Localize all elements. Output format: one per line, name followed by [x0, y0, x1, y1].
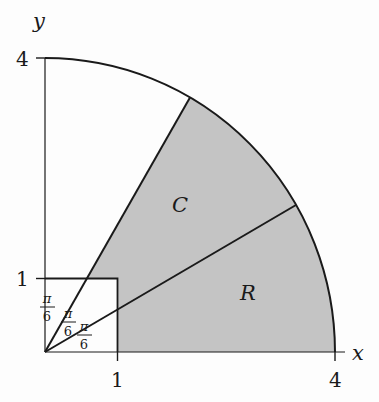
angle-label-3-numerator: π — [79, 319, 89, 334]
shaded-sector-fill — [45, 97, 335, 352]
shaded-region — [45, 97, 335, 352]
region-label-R: R — [239, 281, 256, 305]
angle-label-2-denominator: 6 — [64, 324, 72, 339]
region-label-C: C — [172, 193, 188, 217]
y-tick-label-4: 4 — [16, 47, 29, 71]
angle-label-2-numerator: π — [63, 306, 73, 321]
y-axis-label: y — [32, 9, 46, 33]
figure-container: y x 4 1 1 4 C R π 6 π 6 π 6 — [0, 0, 379, 402]
quarter-disk-diagram: y x 4 1 1 4 C R π 6 π 6 π 6 — [0, 0, 379, 402]
x-tick-label-4: 4 — [329, 368, 342, 392]
angle-label-1: π 6 — [40, 291, 55, 324]
x-tick-label-1: 1 — [111, 368, 124, 392]
y-tick-label-1: 1 — [16, 267, 29, 291]
angle-label-1-denominator: 6 — [43, 309, 51, 324]
x-axis-label: x — [352, 341, 364, 365]
angle-label-3-denominator: 6 — [80, 337, 88, 352]
angle-label-1-numerator: π — [42, 291, 52, 306]
